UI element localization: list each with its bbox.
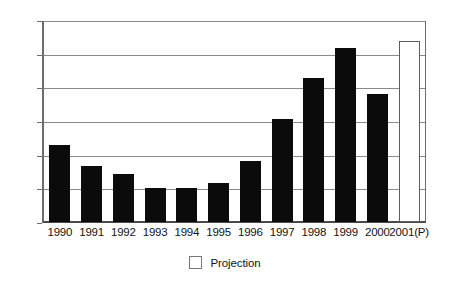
bar-slot bbox=[266, 22, 298, 222]
bar-slot bbox=[235, 22, 267, 222]
bar bbox=[49, 145, 70, 222]
bar-slot bbox=[108, 22, 140, 222]
bar bbox=[399, 41, 420, 222]
legend-label: Projection bbox=[210, 257, 260, 269]
bar bbox=[335, 48, 356, 222]
bar bbox=[176, 188, 197, 222]
bar-chart: 0306090120150180 19901991199219931994199… bbox=[0, 0, 450, 289]
x-tick-label: 2001(P) bbox=[385, 226, 433, 239]
bar-slot bbox=[393, 22, 425, 222]
bar bbox=[145, 188, 166, 222]
bar-slot bbox=[139, 22, 171, 222]
bar bbox=[303, 78, 324, 222]
bar bbox=[81, 166, 102, 222]
legend-swatch-projection bbox=[189, 256, 202, 269]
y-tick-mark bbox=[37, 223, 42, 224]
bar bbox=[240, 161, 261, 222]
bar bbox=[113, 174, 134, 222]
bar bbox=[208, 183, 229, 222]
bars-container bbox=[44, 22, 425, 222]
bar-slot bbox=[298, 22, 330, 222]
bar-slot bbox=[44, 22, 76, 222]
bar-slot bbox=[171, 22, 203, 222]
bar-slot bbox=[362, 22, 394, 222]
bar bbox=[367, 94, 388, 222]
chart-legend: Projection bbox=[0, 256, 450, 269]
bar-slot bbox=[76, 22, 108, 222]
bar-slot bbox=[203, 22, 235, 222]
bar bbox=[272, 119, 293, 222]
bar-slot bbox=[330, 22, 362, 222]
